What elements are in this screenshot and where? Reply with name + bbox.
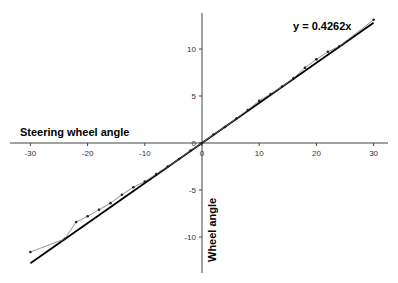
data-point <box>224 126 227 129</box>
data-point <box>258 99 261 102</box>
data-point <box>304 67 307 70</box>
data-point <box>269 93 272 96</box>
data-point <box>132 186 135 189</box>
data-point <box>292 77 295 80</box>
data-point <box>338 45 341 48</box>
y-tick-label: 10 <box>187 45 196 54</box>
data-point <box>155 173 158 176</box>
data-point <box>189 149 192 152</box>
data-point <box>166 165 169 168</box>
data-point <box>98 208 101 211</box>
data-point <box>121 193 124 196</box>
data-point <box>281 85 284 88</box>
y-tick-label: -10 <box>184 233 196 242</box>
x-tick-label: 0 <box>200 149 205 158</box>
data-point <box>212 133 215 136</box>
x-tick-label: -20 <box>82 149 94 158</box>
data-point <box>29 251 32 254</box>
data-point <box>201 142 204 145</box>
x-tick-label: -10 <box>139 149 151 158</box>
data-point <box>144 180 147 183</box>
x-ticks: -30-20-100102030 <box>25 143 379 158</box>
x-tick-label: 30 <box>369 149 378 158</box>
data-point <box>327 51 330 54</box>
x-tick-label: 20 <box>312 149 321 158</box>
data-point <box>63 238 66 241</box>
x-tick-label: 10 <box>255 149 264 158</box>
fit-equation-label: y = 0.4262x <box>293 20 352 32</box>
x-tick-label: -30 <box>25 149 37 158</box>
data-point <box>86 215 89 218</box>
data-point <box>75 221 78 224</box>
x-axis-title: Steering wheel angle <box>20 126 129 138</box>
data-point <box>315 58 318 61</box>
y-tick-label: -5 <box>189 186 197 195</box>
chart: -30-20-100102030 -10-50510 Steering whee… <box>0 0 398 283</box>
data-point <box>235 117 238 120</box>
data-point <box>178 158 181 161</box>
data-point <box>246 109 249 112</box>
data-point <box>372 19 375 22</box>
data-point <box>109 202 112 205</box>
y-axis-title: Wheel angle <box>206 198 218 262</box>
y-tick-label: 5 <box>192 92 197 101</box>
